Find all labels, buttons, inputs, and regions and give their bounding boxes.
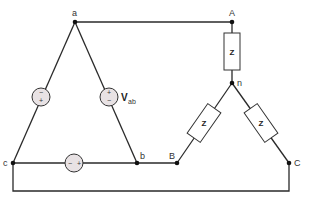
- vab-subscript: ab: [128, 98, 136, 105]
- svg-text:−: −: [39, 89, 43, 96]
- wires: [13, 22, 289, 191]
- voltage-source-ab: + − V ab: [100, 88, 136, 106]
- node-label-a: a: [72, 8, 77, 18]
- node-label-b: b: [140, 151, 145, 161]
- circuit-diagram: Z Z Z − + + − V ab − + a A n: [0, 0, 309, 197]
- svg-text:Z: Z: [259, 119, 264, 128]
- node-label-C: C: [294, 158, 301, 168]
- voltage-source-ca: − +: [32, 88, 50, 106]
- voltage-source-bc: − +: [65, 154, 83, 172]
- node-label-n: n: [237, 78, 242, 88]
- impedance-bn: Z: [187, 104, 221, 143]
- svg-text:−: −: [107, 97, 111, 104]
- impedance-cn: Z: [244, 104, 278, 143]
- svg-text:+: +: [77, 160, 81, 167]
- svg-text:Z: Z: [202, 119, 207, 128]
- node-label-c: c: [3, 158, 8, 168]
- impedance-an: Z: [224, 33, 240, 70]
- nodes: [11, 20, 292, 166]
- vab-label: V: [121, 92, 128, 103]
- svg-text:+: +: [39, 97, 43, 104]
- svg-text:+: +: [107, 89, 111, 96]
- svg-text:Z: Z: [230, 48, 235, 57]
- node-label-B: B: [169, 151, 175, 161]
- svg-text:−: −: [68, 160, 72, 167]
- node-label-A: A: [229, 8, 235, 18]
